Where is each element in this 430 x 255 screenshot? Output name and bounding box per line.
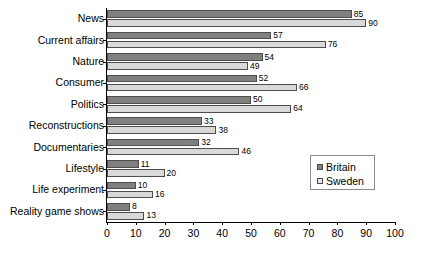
bar-britain [107,160,139,168]
bar-sweden [107,148,239,156]
bar-value-label: 57 [273,31,282,40]
bar-value-label: 85 [354,10,363,19]
bar-sweden [107,19,366,27]
category-label: Reality game shows [0,206,104,217]
bar-britain [107,53,263,61]
bar-britain [107,182,136,190]
legend-swatch-sweden-icon [317,178,323,184]
bar-sweden [107,105,291,113]
bar-britain [107,75,257,83]
x-axis-tick [251,222,252,225]
x-axis-tick-label: 60 [265,228,295,239]
chart-legend: Britain Sweden [310,155,375,190]
bar-sweden [107,169,165,177]
x-axis-tick [395,222,396,225]
bar-value-label: 90 [368,19,377,28]
category-label: Documentaries [0,142,104,153]
x-axis-tick [280,222,281,225]
bar-value-label: 11 [141,160,150,169]
bar-sweden [107,191,153,199]
bar-sweden [107,126,216,134]
legend-swatch-britain-icon [317,164,323,170]
bar-value-label: 13 [146,211,155,220]
x-axis-tick [309,222,310,225]
bar-sweden [107,84,297,92]
y-axis-tick [103,62,106,63]
category-label: News [0,13,104,24]
legend-item-britain: Britain [317,161,374,173]
bar-britain [107,10,352,18]
y-axis-tick [103,147,106,148]
bar-value-label: 46 [241,147,250,156]
category-label: Life experiment [0,184,104,195]
category-label: Current affairs [0,35,104,46]
y-axis-tick [103,104,106,105]
bar-sweden [107,41,326,49]
category-label: Politics [0,99,104,110]
y-axis-tick [103,19,106,20]
legend-label-sweden: Sweden [326,176,364,187]
bar-britain [107,203,130,211]
x-axis-tick [136,222,137,225]
y-axis-tick [103,83,106,84]
x-axis-tick-label: 50 [236,228,266,239]
x-axis-tick-label: 30 [178,228,208,239]
bar-value-label: 64 [293,104,302,113]
bar-value-label: 52 [259,74,268,83]
y-axis-tick [103,40,106,41]
bar-value-label: 49 [250,62,259,71]
x-axis-tick [165,222,166,225]
bar-value-label: 16 [155,190,164,199]
bar-britain [107,96,251,104]
x-axis-tick-label: 20 [150,228,180,239]
x-axis-tick [107,222,108,225]
clipped-caption [6,246,296,255]
x-axis-tick [366,222,367,225]
bar-value-label: 50 [253,95,262,104]
legend-label-britain: Britain [326,162,356,173]
bar-value-label: 38 [218,126,227,135]
category-label: Reconstructions [0,120,104,131]
bar-britain [107,139,199,147]
bar-sweden [107,212,144,220]
bar-britain [107,32,271,40]
bar-value-label: 54 [265,53,274,62]
category-axis-labels: NewsCurrent affairsNatureConsumerPolitic… [0,8,104,222]
bar-value-label: 20 [167,169,176,178]
x-axis-tick [222,222,223,225]
bar-value-label: 32 [201,138,210,147]
x-axis-tick-label: 10 [121,228,151,239]
y-axis-tick [103,211,106,212]
bar-chart: NewsCurrent affairsNatureConsumerPolitic… [0,0,430,255]
bar-value-label: 76 [328,40,337,49]
x-axis-tick-label: 100 [380,228,410,239]
x-axis-tick-label: 80 [322,228,352,239]
bar-value-label: 33 [204,117,213,126]
category-label: Nature [0,56,104,67]
bar-value-label: 8 [132,202,137,211]
y-axis-tick [103,169,106,170]
bar-value-label: 66 [299,83,308,92]
x-axis-tick [337,222,338,225]
x-axis-tick-label: 90 [351,228,381,239]
category-label: Lifestyle [0,163,104,174]
y-axis-tick [103,190,106,191]
x-axis-tick-label: 40 [207,228,237,239]
bar-value-label: 10 [138,181,147,190]
bar-sweden [107,62,248,70]
y-axis-tick [103,126,106,127]
x-axis-tick-label: 0 [92,228,122,239]
x-axis-tick [193,222,194,225]
bar-britain [107,117,202,125]
category-label: Consumer [0,77,104,88]
legend-item-sweden: Sweden [317,175,374,187]
x-axis-tick-label: 70 [294,228,324,239]
